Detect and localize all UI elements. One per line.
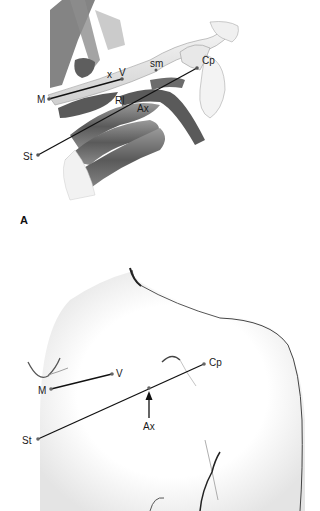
label-st: St [22, 435, 32, 446]
label-ax: Ax [143, 421, 155, 432]
label-ax: Ax [137, 103, 149, 114]
label-m: M [37, 94, 45, 105]
label-m: M [38, 385, 46, 396]
point-ax [147, 386, 151, 390]
torso-skin [40, 272, 305, 511]
scapula [180, 22, 238, 119]
panel-a-illustration: M x V sm Cp Rl Ax St [23, 0, 238, 200]
figure-canvas: M x V sm Cp Rl Ax St A [0, 0, 320, 511]
label-cp: Cp [202, 55, 215, 66]
point-st [36, 437, 40, 441]
label-sm: sm [150, 58, 163, 69]
point-cp [202, 362, 206, 366]
point-st [36, 153, 40, 157]
label-v: V [119, 67, 126, 78]
label-cp: Cp [209, 357, 222, 368]
panel-b-illustration: M V Cp Ax St [22, 268, 305, 511]
point-v [110, 372, 114, 376]
label-rl: Rl [115, 95, 124, 106]
label-st: St [23, 151, 33, 162]
label-x: x [107, 69, 112, 80]
point-cp [195, 66, 199, 70]
label-v: V [116, 368, 123, 379]
panel-letter-a: A [20, 214, 28, 226]
ribs [63, 103, 165, 200]
point-m [47, 97, 51, 101]
point-m [49, 387, 53, 391]
